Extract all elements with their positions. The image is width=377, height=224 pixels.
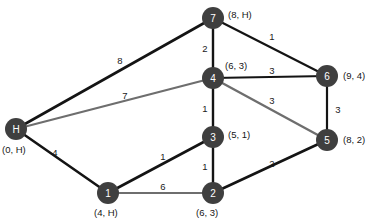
edge-weight-label: 1	[202, 103, 207, 114]
graph-canvas: H7465312 8742133131162 (0, H)(8, H)(6, 3…	[0, 0, 377, 224]
edge-weight-label: 2	[269, 158, 274, 169]
graph-node[interactable]: 3	[202, 126, 224, 148]
graph-node[interactable]: 6	[316, 65, 338, 87]
edge-weight-label: 3	[269, 65, 274, 76]
graph-node[interactable]: 4	[202, 67, 224, 89]
graph-diagram: H7465312 8742133131162 (0, H)(8, H)(6, 3…	[0, 0, 377, 224]
node-tuple-label: (9, 4)	[343, 70, 365, 81]
node-tuple-label: (6, 3)	[225, 60, 247, 71]
edge-weight-label: 2	[202, 43, 207, 54]
edge-weight-label: 4	[52, 147, 57, 158]
node-id-label: 1	[105, 188, 111, 199]
node-tuple-label: (8, 2)	[343, 134, 365, 145]
node-id-label: 6	[324, 71, 330, 82]
edge-weight-label: 7	[122, 90, 127, 101]
graph-node[interactable]: 1	[97, 182, 119, 204]
edge-weight-label: 3	[335, 104, 340, 115]
node-tuple-label: (6, 3)	[196, 207, 218, 218]
node-tuple-label: (5, 1)	[228, 129, 250, 140]
node-layer: H7465312	[5, 7, 338, 204]
node-tuple-label-layer: (0, H)(8, H)(6, 3)(9, 4)(8, 2)(5, 1)(4, …	[2, 9, 365, 218]
edge-weight-label: 1	[202, 161, 207, 172]
graph-edge	[16, 18, 213, 129]
graph-edge	[16, 78, 213, 129]
edge-label-layer: 8742133131162	[52, 31, 340, 192]
edge-weight-label: 1	[269, 31, 274, 42]
node-id-label: H	[12, 124, 19, 135]
graph-node[interactable]: H	[5, 118, 27, 140]
node-id-label: 3	[210, 132, 216, 143]
edge-layer	[16, 18, 327, 193]
node-tuple-label: (8, H)	[228, 9, 252, 20]
graph-edge	[16, 129, 108, 193]
graph-node[interactable]: 2	[202, 182, 224, 204]
node-id-label: 5	[324, 135, 330, 146]
graph-edge	[213, 76, 327, 78]
edge-weight-label: 3	[269, 95, 274, 106]
node-id-label: 7	[210, 13, 216, 24]
node-id-label: 2	[210, 188, 216, 199]
node-tuple-label: (4, H)	[94, 207, 118, 218]
edge-weight-label: 8	[117, 55, 122, 66]
edge-weight-label: 6	[160, 181, 165, 192]
graph-node[interactable]: 7	[202, 7, 224, 29]
node-id-label: 4	[210, 73, 216, 84]
node-tuple-label: (0, H)	[2, 144, 26, 155]
graph-node[interactable]: 5	[316, 129, 338, 151]
edge-weight-label: 1	[160, 151, 165, 162]
